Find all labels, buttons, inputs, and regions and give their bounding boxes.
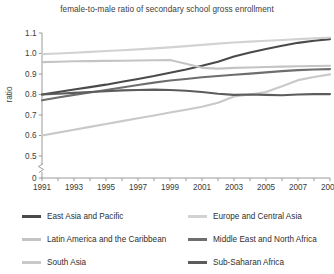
svg-text:2007: 2007 (289, 183, 308, 192)
legend-item[interactable]: East Asia and Pacific (22, 205, 189, 228)
svg-text:1991: 1991 (33, 183, 52, 192)
legend-swatch-icon (22, 261, 41, 264)
legend-item[interactable]: South Asia (22, 251, 189, 274)
legend-swatch-icon (188, 238, 207, 241)
legend-label: East Asia and Pacific (47, 212, 123, 221)
legend-item[interactable]: Middle East and North Africa (188, 228, 334, 251)
chart-title: female-to-male ratio of secondary school… (0, 5, 334, 14)
legend-item[interactable]: Latin America and the Caribbean (22, 228, 189, 251)
svg-text:0.8: 0.8 (25, 90, 37, 99)
data-series-group (42, 38, 330, 136)
legend-column-right: Europe and Central Asia Middle East and … (188, 205, 334, 274)
legend-label: Middle East and North Africa (213, 235, 317, 244)
series-line (42, 60, 330, 69)
x-axis: 1991199319951997199920012003200520072009 (33, 178, 334, 192)
svg-text:0.5: 0.5 (25, 152, 37, 161)
legend-label: South Asia (47, 258, 86, 267)
svg-text:2001: 2001 (193, 183, 212, 192)
svg-text:2003: 2003 (225, 183, 244, 192)
y-axis: 00.50.60.70.80.91.01.1 (25, 29, 43, 183)
legend-label: Sub-Saharan Africa (213, 258, 284, 267)
series-line (42, 74, 330, 135)
svg-text:ratio: ratio (5, 86, 14, 102)
svg-text:0.6: 0.6 (25, 131, 37, 140)
svg-text:0.9: 0.9 (25, 70, 37, 79)
legend-item[interactable]: Sub-Saharan Africa (188, 251, 334, 274)
svg-text:2005: 2005 (257, 183, 276, 192)
legend-label: Europe and Central Asia (213, 212, 302, 221)
legend-item[interactable]: Europe and Central Asia (188, 205, 334, 228)
svg-text:1999: 1999 (161, 183, 180, 192)
chart-legend: East Asia and Pacific Latin America and … (0, 205, 334, 274)
legend-swatch-icon (188, 215, 207, 218)
svg-text:0.7: 0.7 (25, 111, 37, 120)
line-chart-svg: 00.50.60.70.80.91.01.1 19911993199519971… (0, 22, 334, 200)
legend-swatch-icon (188, 261, 207, 264)
svg-text:1993: 1993 (65, 183, 84, 192)
legend-label: Latin America and the Caribbean (47, 235, 166, 244)
svg-text:2009: 2009 (321, 183, 334, 192)
svg-text:1.1: 1.1 (25, 29, 37, 38)
series-line (42, 90, 330, 96)
svg-text:1.0: 1.0 (25, 49, 37, 58)
svg-text:1995: 1995 (97, 183, 116, 192)
legend-swatch-icon (22, 238, 41, 241)
legend-swatch-icon (22, 215, 41, 218)
y-axis-title: ratio (5, 86, 14, 102)
svg-text:1997: 1997 (129, 183, 148, 192)
plot-area: 00.50.60.70.80.91.01.1 19911993199519971… (0, 22, 334, 200)
legend-column-left: East Asia and Pacific Latin America and … (22, 205, 189, 274)
chart-container: female-to-male ratio of secondary school… (0, 0, 334, 274)
svg-text:0: 0 (32, 174, 37, 183)
